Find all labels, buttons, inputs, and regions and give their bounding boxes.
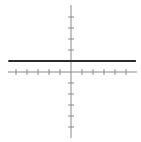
- coordinate-plane: [0, 0, 141, 142]
